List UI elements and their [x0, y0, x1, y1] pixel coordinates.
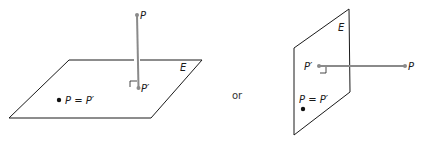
left-label-p: P [140, 10, 147, 21]
right-label-p-prime: P′ [304, 61, 313, 72]
right-label-p: P [408, 61, 415, 72]
left-label-plane-e: E [180, 62, 187, 73]
connector-or: or [232, 90, 243, 101]
left-label-p-prime: P′ [141, 83, 150, 94]
right-point-p [403, 64, 407, 68]
left-point-p-prime [137, 86, 141, 90]
left-right-angle-icon [130, 81, 137, 87]
left-plane-edge [9, 60, 202, 118]
left-perpendicular-line [137, 15, 139, 88]
left-label-p-equals-p-prime: P = P′ [65, 95, 95, 106]
right-diagram: P′ P E P = P′ [294, 9, 415, 135]
right-point-p-prime [317, 64, 321, 68]
left-point-p [135, 13, 139, 17]
projection-diagram: P P′ E P = P′ or P′ P E P = P′ [0, 0, 425, 143]
right-label-p-equals-p-prime: P = P′ [299, 94, 329, 105]
right-label-plane-e: E [338, 22, 345, 33]
right-right-angle-icon [320, 67, 326, 73]
right-dot-p-equals-p-prime [301, 107, 305, 111]
left-diagram: P P′ E P = P′ [9, 10, 202, 118]
left-dot-p-equals-p-prime [57, 98, 61, 102]
